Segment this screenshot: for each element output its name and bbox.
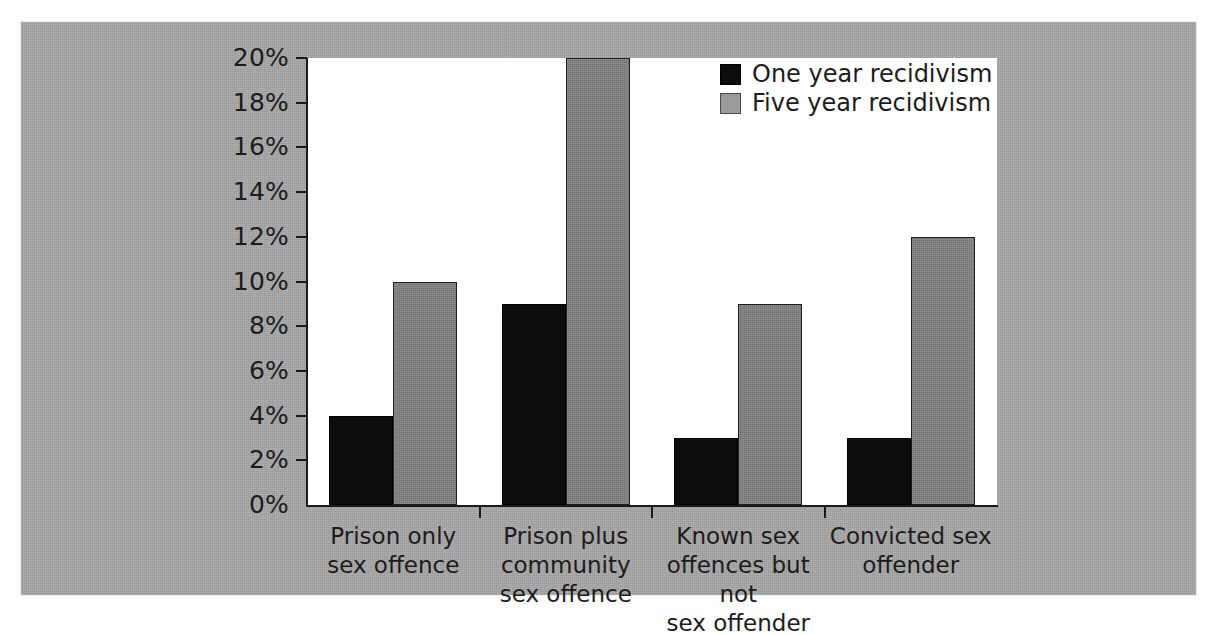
gray-square-swatch-icon: [720, 93, 741, 114]
y-axis-label: 6%: [189, 358, 289, 383]
y-axis-tick: [296, 325, 307, 327]
category-label-4: Convicted sexoffender: [825, 522, 998, 580]
category-label-3: Known sexoffences but notsex offender: [652, 522, 825, 635]
category-label-line: sex offence: [307, 551, 480, 580]
category-label-line: community: [480, 551, 653, 580]
category-label-line: Convicted sex: [825, 522, 998, 551]
y-axis-label: 4%: [189, 403, 289, 428]
bar-five-year-group-1: [393, 282, 457, 506]
bar-five-year-group-4: [911, 237, 975, 505]
category-label-line: Prison only: [307, 522, 480, 551]
legend-item-five-year[interactable]: Five year recidivism: [720, 91, 992, 115]
y-axis-tick: [296, 146, 307, 148]
x-axis-tick: [479, 507, 481, 518]
y-axis-label: 0%: [189, 492, 289, 517]
bar-one-year-group-4: [847, 438, 911, 505]
y-axis-label: 12%: [189, 224, 289, 249]
category-label-1: Prison onlysex offence: [307, 522, 480, 580]
y-axis-label: 18%: [189, 90, 289, 115]
y-axis-tick: [296, 415, 307, 417]
y-axis-tick: [296, 191, 307, 193]
category-label-line: sex offender: [652, 609, 825, 635]
x-axis-tick: [651, 507, 653, 518]
chart-legend: One year recidivism Five year recidivism: [720, 62, 992, 115]
y-axis-tick: [296, 281, 307, 283]
bar-one-year-group-2: [502, 304, 566, 505]
bar-five-year-group-2: [566, 58, 630, 505]
bar-five-year-group-3: [738, 304, 802, 505]
y-axis-label: 14%: [189, 179, 289, 204]
category-label-line: offender: [825, 551, 998, 580]
black-square-swatch-icon: [720, 64, 741, 85]
category-label-line: offences but not: [652, 551, 825, 609]
figure-panel: 0%2%4%6%8%10%12%14%16%18%20% Prison only…: [21, 22, 1196, 595]
y-axis-tick: [296, 459, 307, 461]
category-label-line: Known sex: [652, 522, 825, 551]
legend-label-one-year: One year recidivism: [752, 62, 992, 86]
y-axis-label: 20%: [189, 45, 289, 70]
legend-item-one-year[interactable]: One year recidivism: [720, 62, 992, 86]
y-axis-label: 10%: [189, 269, 289, 294]
y-axis-tick: [296, 370, 307, 372]
y-axis-tick: [296, 236, 307, 238]
y-axis-tick: [296, 102, 307, 104]
bar-one-year-group-1: [329, 416, 393, 505]
legend-label-five-year: Five year recidivism: [752, 91, 991, 115]
category-label-2: Prison pluscommunitysex offence: [480, 522, 653, 609]
y-axis-tick: [296, 57, 307, 59]
category-label-line: Prison plus: [480, 522, 653, 551]
y-axis-label: 16%: [189, 134, 289, 159]
category-label-line: sex offence: [480, 580, 653, 609]
y-axis-line: [306, 58, 308, 507]
y-axis-label: 2%: [189, 447, 289, 472]
y-axis-label: 8%: [189, 313, 289, 338]
bar-one-year-group-3: [674, 438, 738, 505]
x-axis-tick: [824, 507, 826, 518]
